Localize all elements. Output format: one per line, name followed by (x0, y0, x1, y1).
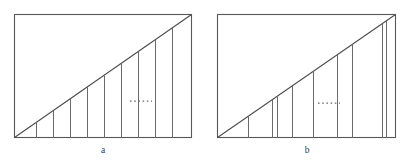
figure-root: a b (0, 0, 418, 163)
panel-b-diagonal (218, 15, 396, 138)
panel-b-partitions (249, 21, 387, 138)
panel-a-label: a (101, 145, 106, 155)
panel-b-label: b (305, 145, 310, 155)
panel-a-partitions (37, 28, 173, 138)
panel-a: a (15, 15, 192, 156)
panel-a-diagonal (15, 15, 192, 138)
riemann-partition-figure: a b (0, 0, 418, 163)
panel-b: b (218, 15, 396, 156)
